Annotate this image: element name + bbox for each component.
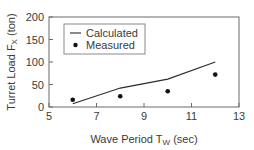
measured-point	[213, 72, 218, 77]
line-chart: 5791113 050100150200 CalculatedMeasured …	[0, 0, 254, 150]
x-axis: 5791113	[46, 103, 245, 122]
y-tick-label: 50	[32, 79, 44, 91]
measured-point	[165, 89, 170, 94]
x-tick-label: 11	[186, 110, 197, 122]
x-tick-label: 13	[233, 110, 245, 122]
legend-label-measured: Measured	[86, 39, 135, 51]
calculated-line	[73, 62, 216, 104]
y-axis-label: Turret Load FX (ton)	[5, 13, 19, 110]
x-tick-label: 7	[93, 110, 99, 122]
series-calculated	[73, 62, 216, 104]
x-tick-label: 9	[141, 110, 147, 122]
y-tick-label: 150	[26, 34, 44, 46]
legend-marker-icon	[73, 43, 77, 47]
measured-point	[118, 94, 123, 99]
y-tick-label: 0	[38, 101, 44, 113]
x-tick-label: 5	[46, 110, 52, 122]
y-tick-label: 100	[26, 56, 44, 68]
legend: CalculatedMeasured	[64, 24, 145, 54]
measured-point	[70, 98, 75, 103]
x-axis-label: Wave Period TW (sec)	[90, 133, 197, 147]
y-tick-label: 200	[26, 11, 44, 23]
legend-label-calculated: Calculated	[86, 27, 138, 39]
